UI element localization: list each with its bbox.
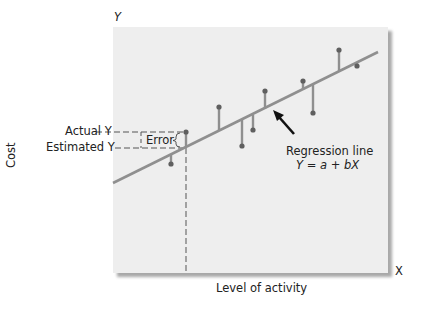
data-point — [310, 110, 315, 115]
regression-line-label: Regression line — [286, 146, 373, 158]
x-axis-label: Level of activity — [216, 283, 307, 295]
actual-y-label: Actual Y — [65, 126, 112, 138]
data-point — [239, 143, 244, 148]
data-point — [354, 63, 359, 68]
data-point — [336, 47, 341, 52]
error-label: Error — [146, 135, 174, 147]
data-point — [216, 104, 221, 109]
y-axis-letter: Y — [114, 12, 121, 24]
data-point — [250, 127, 255, 132]
estimated-y-label: Estimated Y — [46, 142, 115, 154]
data-point — [300, 78, 305, 83]
regression-diagram: Y X Actual Y Estimated Y Error Regressio… — [0, 0, 424, 310]
y-axis-label: Cost — [4, 142, 18, 168]
regression-equation: Y = a + bX — [296, 160, 359, 172]
data-point — [262, 88, 267, 93]
data-point — [183, 129, 188, 134]
data-point — [168, 161, 173, 166]
x-axis-letter: X — [395, 266, 403, 278]
